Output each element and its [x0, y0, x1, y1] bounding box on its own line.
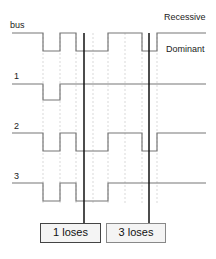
node1-waveform: [12, 84, 206, 100]
dominant-label: Dominant: [166, 44, 205, 54]
node2-waveform: [12, 133, 206, 151]
node3-waveform: [12, 183, 206, 201]
bit-boundary-lines: [43, 33, 157, 205]
bus-label: bus: [10, 20, 25, 30]
node1-label: 1: [14, 71, 19, 81]
result-box-3-loses: 3 loses: [106, 223, 166, 243]
node3-label: 3: [14, 171, 19, 181]
result-box-1-loses: 1 loses: [40, 223, 101, 243]
node2-label: 2: [14, 121, 19, 131]
arbitration-timing-diagram: [0, 0, 216, 259]
recessive-label: Recessive: [164, 12, 206, 22]
